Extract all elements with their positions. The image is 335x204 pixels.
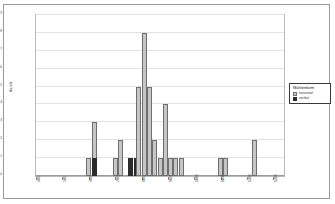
- y-axis-tick-label: 8: [0, 30, 2, 33]
- legend-item: horizontal: [293, 92, 328, 96]
- bar-segment-horizontal: [152, 140, 157, 176]
- bar-segment-horizontal: [92, 122, 97, 158]
- bar-segment-horizontal: [113, 158, 118, 176]
- y-axis-tick-label: 9: [0, 12, 2, 15]
- y-axis-tick-label: 0: [0, 173, 2, 176]
- bar-segment-horizontal: [147, 87, 152, 176]
- y-axis: Anzahl 0123456789: [4, 14, 35, 177]
- bar-series-container: [36, 15, 284, 176]
- bar: [118, 140, 123, 176]
- bar-segment-horizontal: [136, 87, 141, 176]
- bar: [128, 158, 133, 176]
- bar-segment-horizontal: [163, 104, 168, 176]
- bar: [163, 104, 168, 176]
- legend-swatch-icon: [293, 97, 297, 101]
- bar: [223, 158, 228, 176]
- legend: Mühlenform horizontalvertikal: [289, 83, 331, 104]
- y-axis-tick-label: 1: [0, 155, 2, 158]
- bar-segment-horizontal: [223, 158, 228, 176]
- legend-title: Mühlenform: [293, 86, 328, 90]
- bar: [218, 158, 223, 176]
- x-axis: 4005006007008009001000110012001300: [35, 177, 285, 203]
- bar: [252, 140, 257, 176]
- legend-rows: horizontalvertikal: [293, 92, 328, 101]
- y-axis-title: Anzahl: [9, 82, 13, 92]
- bar: [136, 87, 141, 176]
- legend-item-label: horizontal: [299, 92, 313, 95]
- x-axis-tick-label: 900: [170, 176, 173, 182]
- bar-segment-horizontal: [142, 33, 147, 176]
- x-axis-tick-label: 700: [117, 176, 120, 182]
- y-axis-tick-label: 4: [0, 101, 2, 104]
- bar-segment-vertikal: [92, 158, 97, 176]
- bar-segment-horizontal: [218, 158, 223, 176]
- bar: [179, 158, 184, 176]
- chart-frame: Anzahl 0123456789 4005006007008009001000…: [3, 4, 330, 199]
- bar-segment-horizontal: [168, 158, 173, 176]
- bar: [142, 33, 147, 176]
- y-axis-tick-label: 5: [0, 84, 2, 87]
- y-axis-tick-label: 3: [0, 119, 2, 122]
- bar: [113, 158, 118, 176]
- bar-segment-horizontal: [86, 158, 91, 176]
- bar-segment-horizontal: [118, 140, 123, 176]
- y-axis-tick-label: 2: [0, 137, 2, 140]
- legend-item-label: vertikal: [299, 97, 309, 100]
- bar: [92, 122, 97, 176]
- x-axis-tick-label: 500: [64, 176, 67, 182]
- x-axis-tick-label: 1100: [222, 175, 225, 182]
- bar: [152, 140, 157, 176]
- bar: [168, 158, 173, 176]
- bar: [173, 158, 178, 176]
- x-axis-tick-label: 800: [143, 176, 146, 182]
- bar: [86, 158, 91, 176]
- legend-item: vertikal: [293, 97, 328, 101]
- bar-segment-horizontal: [173, 158, 178, 176]
- bar: [158, 158, 163, 176]
- plot-area: [35, 14, 285, 177]
- x-axis-tick-label: 600: [90, 176, 93, 182]
- y-axis-tick-label: 6: [0, 66, 2, 69]
- bar-segment-horizontal: [252, 140, 257, 176]
- x-axis-tick-label: 400: [38, 176, 41, 182]
- y-axis-tick-label: 7: [0, 48, 2, 51]
- bar-segment-horizontal: [158, 158, 163, 176]
- bar-segment-horizontal: [179, 158, 184, 176]
- x-axis-tick-label: 1200: [249, 174, 252, 182]
- bar-segment-vertikal: [128, 158, 133, 176]
- x-axis-tick-label: 1300: [275, 174, 278, 182]
- legend-swatch-icon: [293, 92, 297, 96]
- x-axis-tick-label: 1000: [196, 174, 199, 182]
- bar: [147, 87, 152, 176]
